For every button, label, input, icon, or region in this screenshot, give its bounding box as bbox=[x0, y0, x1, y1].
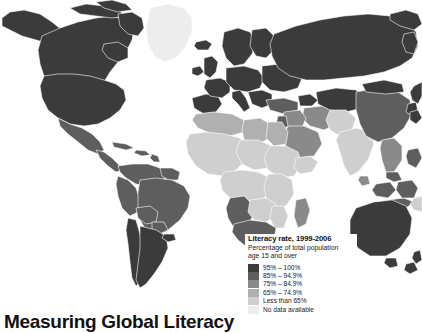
legend-title: Literacy rate, 1999-2006 bbox=[248, 234, 357, 243]
world-map-svg bbox=[0, 0, 422, 300]
legend-label-95-100: 95% – 100% bbox=[263, 264, 300, 272]
legend-label-85-94: 85% – 94.9% bbox=[263, 272, 302, 280]
page-headline: Measuring Global Literacy bbox=[4, 311, 234, 333]
legend-item-75-84: 75% – 84.9% bbox=[248, 280, 357, 288]
legend-item-less-than-65: Less than 65% bbox=[248, 297, 357, 305]
legend-item-no-data: No data available bbox=[248, 305, 357, 313]
legend-label-75-84: 75% – 84.9% bbox=[263, 280, 302, 288]
legend-subtitle-line1: Percentage of total population bbox=[248, 244, 338, 251]
legend-swatch-95-100 bbox=[248, 264, 259, 272]
legend-label-less-than-65: Less than 65% bbox=[263, 297, 307, 305]
legend-label-65-74: 65% – 74.9% bbox=[263, 289, 302, 297]
legend-swatch-no-data bbox=[248, 306, 259, 314]
legend-item-65-74: 65% – 74.9% bbox=[248, 289, 357, 297]
legend-item-95-100: 95% – 100% bbox=[248, 263, 357, 271]
map-legend: Literacy rate, 1999-2006 Percentage of t… bbox=[245, 234, 357, 314]
legend-swatch-less-than-65 bbox=[248, 297, 259, 305]
legend-subtitle: Percentage of total population age 15 an… bbox=[248, 244, 357, 260]
legend-label-no-data: No data available bbox=[263, 306, 314, 314]
legend-swatch-75-84 bbox=[248, 280, 259, 288]
legend-swatch-85-94 bbox=[248, 272, 259, 280]
world-map bbox=[0, 0, 422, 300]
region-central-europe bbox=[226, 66, 264, 92]
region-mozambique bbox=[270, 206, 288, 228]
legend-swatch-65-74 bbox=[248, 289, 259, 297]
legend-item-85-94: 85% – 94.9% bbox=[248, 272, 357, 280]
legend-subtitle-line2: age 15 and over bbox=[248, 252, 297, 259]
